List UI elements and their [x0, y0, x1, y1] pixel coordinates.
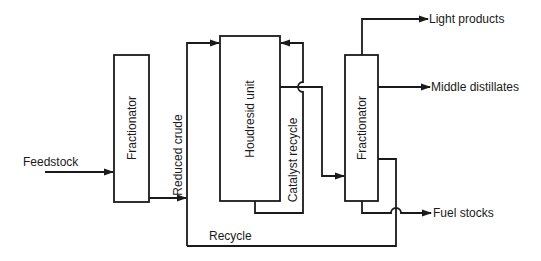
fuel-stocks-stream: Fuel stocks [362, 201, 494, 220]
riser-to-houdresid-arrow [187, 43, 219, 246]
feedstock-label: Feedstock [23, 155, 79, 169]
light-products-arrow [362, 19, 428, 55]
fuel-stocks-label: Fuel stocks [433, 206, 494, 220]
houdresid-unit-label: Houdresid unit [243, 80, 257, 158]
reduced-crude-stream: Reduced crude [149, 43, 219, 246]
light-products-label: Light products [429, 12, 504, 26]
middle-distillates-stream: Middle distillates [378, 80, 519, 94]
fractionator-1: Fractionator [114, 55, 149, 202]
fractionator-1-label: Fractionator [125, 96, 139, 160]
light-products-stream: Light products [362, 12, 504, 55]
catalyst-recycle-label: Catalyst recycle [286, 117, 300, 202]
houdresid-unit: Houdresid unit [220, 36, 280, 201]
fractionator-2: Fractionator [345, 55, 378, 201]
process-flow-diagram: Feedstock Fractionator Reduced crude Hou… [0, 0, 541, 261]
fractionator-2-label: Fractionator [355, 96, 369, 160]
middle-distillates-label: Middle distillates [431, 80, 519, 94]
recycle-label: Recycle [209, 229, 252, 243]
reduced-crude-label: Reduced crude [171, 114, 185, 196]
feedstock-stream: Feedstock [23, 155, 113, 172]
